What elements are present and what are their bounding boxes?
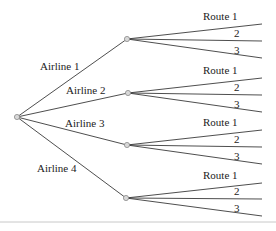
airline-3-label: Airline 3	[65, 117, 105, 129]
airline-3-route-3-label: 3	[234, 150, 240, 162]
airline-2-node	[125, 90, 130, 95]
airline-1-route-1-label: Route 1	[203, 10, 238, 22]
airline-4-edge	[17, 117, 126, 198]
airline-4-node	[123, 195, 128, 200]
airline-2-route-3-edge	[128, 93, 262, 112]
airline-3-node	[124, 142, 129, 147]
airline-1-route-2-edge	[127, 39, 262, 41]
airline-3-route-2-label: 2	[234, 133, 240, 145]
airline-3-route-1-label: Route 1	[203, 116, 238, 128]
airline-4-route-1-edge	[126, 183, 262, 198]
airline-1-node	[124, 36, 129, 41]
airline-1-route-3-edge	[127, 39, 262, 58]
tree-diagram: Airline 1Route 123Airline 2Route 123Airl…	[0, 0, 276, 231]
airline-2-route-3-label: 3	[234, 98, 240, 110]
airline-2-route-2-edge	[128, 93, 262, 95]
airline-1-route-2-label: 2	[234, 27, 240, 39]
airline-4-route-2-label: 2	[234, 185, 240, 197]
airline-3-route-1-edge	[127, 130, 262, 145]
airline-4-route-3-edge	[126, 198, 262, 216]
airline-4-route-2-edge	[126, 198, 262, 199]
airline-2-route-1-edge	[128, 78, 262, 93]
airline-1-route-1-edge	[127, 24, 262, 39]
airline-2-route-1-label: Route 1	[203, 64, 238, 76]
airline-1-label: Airline 1	[40, 60, 79, 72]
airline-4-label: Airline 4	[37, 162, 77, 174]
airline-3-route-3-edge	[127, 145, 262, 164]
airline-4-route-3-label: 3	[234, 202, 240, 214]
airline-2-label: Airline 2	[66, 84, 105, 96]
root-node	[14, 114, 19, 119]
airline-4-route-1-label: Route 1	[203, 169, 238, 181]
airline-3-route-2-edge	[127, 145, 262, 147]
airline-1-route-3-label: 3	[234, 44, 240, 56]
airline-2-route-2-label: 2	[234, 81, 240, 93]
